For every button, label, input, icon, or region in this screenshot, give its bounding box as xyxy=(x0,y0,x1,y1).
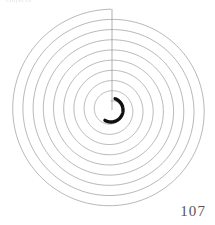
center-ink-blot-arc xyxy=(105,99,123,122)
scanned-page: Objects 107 xyxy=(0,0,215,225)
spiral-turns xyxy=(13,9,204,206)
page-number: 107 xyxy=(180,203,206,220)
spiral-figure xyxy=(0,0,215,225)
spiral-plate xyxy=(0,0,215,225)
